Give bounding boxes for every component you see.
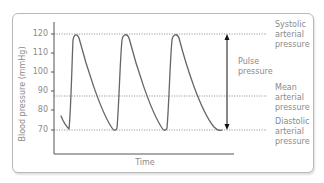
systolic-label: Systolic arterial pressure: [275, 20, 310, 50]
pulse-pressure-arrow: [225, 34, 230, 130]
pulse-pressure-label: Pulse pressure: [238, 57, 273, 77]
y-tick-110: 110: [28, 48, 48, 57]
pressure-waveform: [61, 35, 222, 131]
x-axis-label: Time: [135, 158, 155, 167]
diastolic-label: Diastolic arterial pressure: [275, 117, 310, 147]
mean-label: Mean arterial pressure: [275, 83, 310, 113]
y-tick-100: 100: [28, 67, 48, 76]
y-tick-90: 90: [28, 86, 48, 95]
y-tick-70: 70: [28, 125, 48, 134]
y-axis-label: Blood pressure (mmHg): [18, 46, 27, 141]
y-tick-120: 120: [28, 29, 48, 38]
y-tick-80: 80: [28, 105, 48, 114]
